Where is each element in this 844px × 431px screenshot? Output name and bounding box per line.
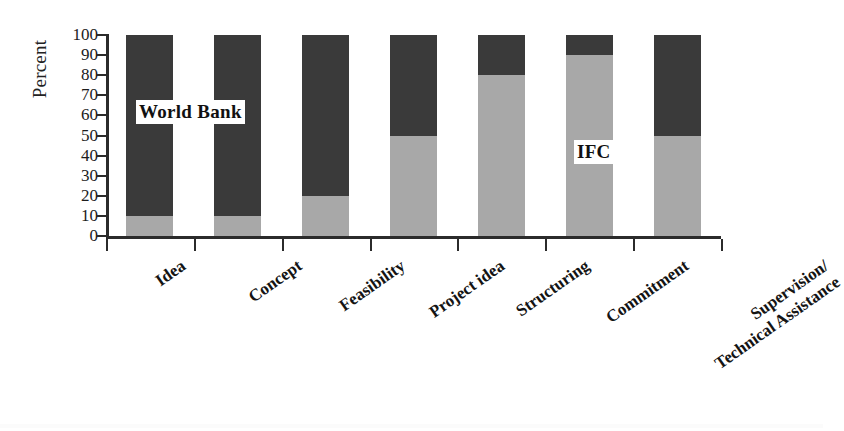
x-tick-mark bbox=[721, 239, 723, 251]
y-tick-mark bbox=[97, 155, 109, 157]
x-category-label-line: Idea bbox=[152, 256, 189, 290]
x-category-label-2: Concept bbox=[245, 256, 306, 307]
x-category-label-line: Structuring bbox=[513, 256, 594, 320]
y-tick-mark bbox=[97, 135, 109, 137]
x-category-label-line: Feasibility bbox=[335, 256, 408, 315]
y-tick-mark bbox=[97, 215, 109, 217]
x-category-label-1: Idea bbox=[152, 256, 190, 291]
y-tick-mark bbox=[97, 235, 109, 237]
y-tick-mark bbox=[97, 175, 109, 177]
x-category-label-line: Commitment bbox=[603, 256, 693, 327]
x-tick-mark bbox=[545, 239, 547, 251]
x-tick-mark bbox=[633, 239, 635, 251]
x-category-label-line: Concept bbox=[245, 256, 305, 306]
y-tick-mark bbox=[97, 114, 109, 116]
x-tick-mark bbox=[457, 239, 459, 251]
x-category-label-6: Commitment bbox=[603, 256, 693, 328]
x-category-label-7: Supervision/Technical Assistance bbox=[700, 256, 844, 374]
y-tick-mark bbox=[97, 54, 109, 56]
x-tick-mark bbox=[194, 239, 196, 251]
x-category-label-4: Project idea bbox=[425, 256, 508, 322]
x-category-label-line: Project idea bbox=[425, 256, 507, 321]
scan-artifact bbox=[0, 424, 823, 428]
x-category-label-5: Structuring bbox=[513, 256, 594, 321]
y-tick-mark bbox=[97, 94, 109, 96]
x-category-label-3: Feasibility bbox=[335, 256, 408, 316]
y-tick-mark bbox=[97, 34, 109, 36]
y-tick-mark bbox=[97, 195, 109, 197]
x-tick-mark bbox=[282, 239, 284, 251]
x-tick-mark bbox=[106, 239, 108, 251]
y-tick-mark bbox=[97, 74, 109, 76]
x-tick-mark bbox=[370, 239, 372, 251]
